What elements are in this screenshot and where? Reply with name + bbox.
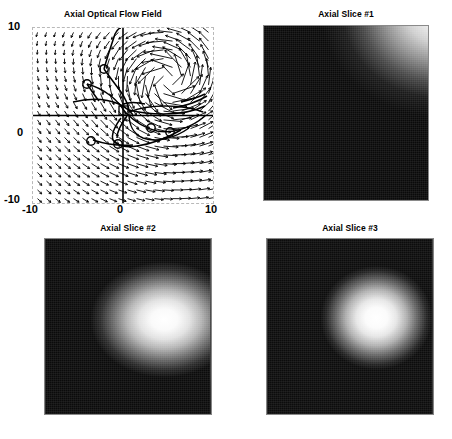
x-tick-right: 10 <box>205 203 217 215</box>
x-tick-left: -10 <box>22 203 38 215</box>
quiver-vector-field <box>33 28 213 203</box>
axial-slice-2-image <box>45 238 212 415</box>
axial-slice-3-panel: Axial Slice #3 <box>248 220 452 439</box>
figure-canvas: Axial Optical Flow Field <box>0 0 452 439</box>
optical-flow-plot-area <box>32 27 214 204</box>
y-tick-bottom: -10 <box>4 193 20 205</box>
image-noise-texture <box>46 239 211 414</box>
image-noise-texture <box>264 26 428 200</box>
axial-slice-2-title: Axial Slice #2 <box>22 223 234 233</box>
y-tick-top: 10 <box>8 20 20 32</box>
y-tick-mid: 0 <box>17 126 23 138</box>
axial-slice-3-title: Axial Slice #3 <box>248 223 452 233</box>
axial-slice-1-panel: Axial Slice #1 <box>240 0 452 220</box>
axial-slice-2-panel: Axial Slice #2 <box>22 220 234 439</box>
axial-slice-3-image <box>267 238 434 415</box>
axial-slice-1-image <box>263 25 429 201</box>
x-tick-mid: 0 <box>117 203 123 215</box>
image-noise-texture <box>268 239 433 414</box>
optical-flow-title: Axial Optical Flow Field <box>0 9 226 19</box>
optical-flow-panel: Axial Optical Flow Field <box>0 0 226 220</box>
axial-slice-1-title: Axial Slice #1 <box>240 9 452 19</box>
